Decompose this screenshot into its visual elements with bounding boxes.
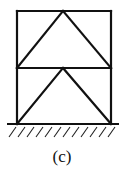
lower-right-brace	[63, 68, 111, 124]
lower-left-brace	[17, 68, 63, 124]
upper-right-brace	[63, 11, 111, 68]
figure-label: (c)	[0, 147, 124, 167]
upper-left-brace	[17, 11, 63, 68]
ground-hatching	[9, 127, 115, 137]
